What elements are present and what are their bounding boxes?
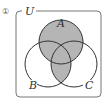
set-label-b: B	[28, 79, 37, 92]
item-number: ①	[2, 7, 9, 16]
universe-label: U	[25, 5, 35, 18]
venn-diagram: ① U A B C	[0, 0, 106, 108]
set-label-a: A	[56, 17, 65, 30]
set-label-c: C	[85, 79, 94, 92]
